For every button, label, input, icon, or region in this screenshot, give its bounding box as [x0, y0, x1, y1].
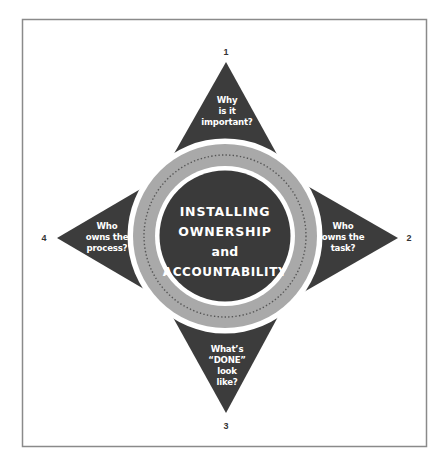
point-3-line-4: like? — [216, 377, 237, 387]
center-line-4: ACCOUNTABILITY — [163, 265, 287, 279]
point-1-number: 1 — [223, 47, 228, 57]
center-line-1: INSTALLING — [180, 204, 271, 219]
ownership-diagram: INSTALLING OWNERSHIP and ACCOUNTABILITY … — [0, 0, 447, 468]
point-1-line-2: is it — [218, 106, 235, 116]
point-3-line-1: What’s — [211, 344, 244, 354]
center-line-3: and — [211, 244, 238, 259]
center-line-2: OWNERSHIP — [178, 224, 272, 239]
point-4-number: 4 — [41, 233, 46, 243]
point-3-line-3: look — [217, 366, 237, 376]
point-2-line-2: owns the — [322, 232, 365, 242]
point-4-line-1: Who — [97, 221, 118, 231]
point-2-line-3: task? — [331, 243, 356, 253]
point-1-line-3: important? — [201, 117, 253, 127]
point-3-line-2: “DONE” — [208, 355, 246, 365]
point-2-number: 2 — [406, 233, 411, 243]
point-1-line-1: Why — [217, 95, 238, 105]
point-2-line-1: Who — [333, 221, 354, 231]
point-4-line-2: owns the — [86, 232, 129, 242]
point-3-number: 3 — [223, 421, 228, 431]
point-4-line-3: process? — [87, 243, 128, 253]
